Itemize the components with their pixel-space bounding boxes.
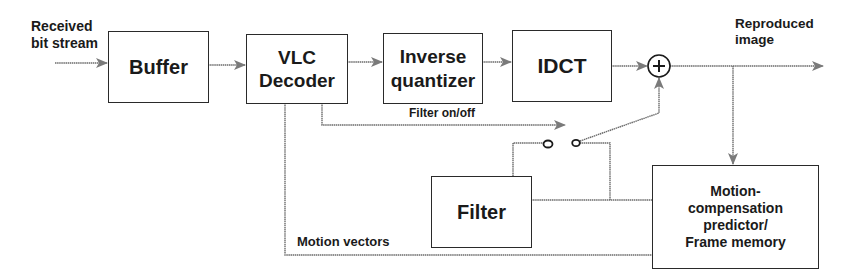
switch-contact-filter xyxy=(544,141,553,148)
idct-label: IDCT xyxy=(538,53,587,79)
vlc-decoder-block: VLC Decoder xyxy=(246,34,348,104)
motion-vectors-label: Motion vectors xyxy=(297,234,389,250)
input-label: Received bit stream xyxy=(31,18,98,52)
switch-contact-bypass xyxy=(572,140,580,146)
motion-compensation-block: Motion- compensation predictor/ Frame me… xyxy=(652,165,819,269)
motion-compensation-label: Motion- compensation predictor/ Frame me… xyxy=(685,183,785,251)
filter-label: Filter xyxy=(457,200,506,224)
vlc-decoder-label: VLC Decoder xyxy=(259,46,335,92)
inverse-quantizer-block: Inverse quantizer xyxy=(383,33,483,104)
buffer-label: Buffer xyxy=(129,55,188,79)
buffer-block: Buffer xyxy=(108,31,209,103)
filter-control-label: Filter on/off xyxy=(409,106,475,120)
output-label: Reproduced image xyxy=(735,16,814,48)
idct-block: IDCT xyxy=(512,30,612,102)
inverse-quantizer-label: Inverse quantizer xyxy=(391,45,475,91)
filter-block: Filter xyxy=(431,176,532,248)
